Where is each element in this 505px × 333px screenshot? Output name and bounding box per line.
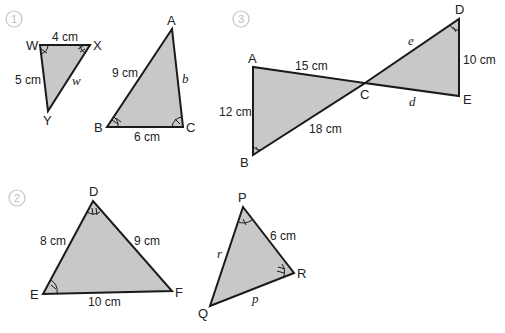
side-bc: 18 cm [309,122,342,136]
problem-number: 1 [11,13,17,25]
side-pq: r [217,246,223,261]
side-ac: 15 cm [295,59,328,73]
triangle-cde: D E e 10 cm d [365,2,496,109]
side-wy: 5 cm [15,73,41,87]
side-pr: 6 cm [270,229,296,243]
side-ce: d [409,94,416,109]
vertex-e: E [463,92,472,107]
side-bc: 6 cm [134,130,160,144]
problem-number: 3 [238,13,244,25]
side-de: 8 cm [40,234,66,248]
side-de: 10 cm [463,53,496,67]
triangle-abc-3: A B C 15 cm 12 cm 18 cm [219,51,369,170]
vertex-r: R [297,266,306,281]
side-ab: 12 cm [219,105,252,119]
triangle-def: D E F 8 cm 9 cm 10 cm [30,184,183,309]
vertex-b: B [240,155,249,170]
side-df: 9 cm [134,234,160,248]
vertex-f: F [175,285,183,300]
side-xy: w [72,73,81,88]
vertex-x: X [93,38,102,53]
problem-number: 2 [14,192,20,204]
vertex-a: A [167,13,176,28]
vertex-b: B [94,120,103,135]
triangle-wxy: W X Y 4 cm 5 cm w [15,30,102,128]
vertex-c: C [360,87,369,102]
problem-3: 3 A B C 15 cm 12 cm 18 cm D E e 10 cm d [219,2,496,170]
problem-2: 2 D E F 8 cm 9 cm 10 cm P Q R 6 cm [9,184,306,321]
vertex-p: P [238,190,247,205]
vertex-d: D [455,2,464,17]
similar-triangles-figure: 1 W X Y 4 cm 5 cm w A B C 9 cm [0,0,505,333]
vertex-y: Y [43,113,52,128]
side-ef: 10 cm [88,295,121,309]
vertex-a: A [248,51,257,66]
side-ac: b [182,71,189,86]
vertex-e: E [30,287,39,302]
triangle-abc-1: A B C 9 cm b 6 cm [94,13,195,144]
vertex-d: D [89,184,98,199]
side-cd: e [408,33,414,48]
triangle-pqr: P Q R 6 cm r p [198,190,306,321]
problem-1: 1 W X Y 4 cm 5 cm w A B C 9 cm [6,11,195,144]
vertex-c: C [186,120,195,135]
side-ab: 9 cm [112,66,138,80]
vertex-w: W [26,38,39,53]
side-qr: p [251,291,259,306]
vertex-q: Q [198,306,208,321]
side-wx: 4 cm [52,30,78,44]
